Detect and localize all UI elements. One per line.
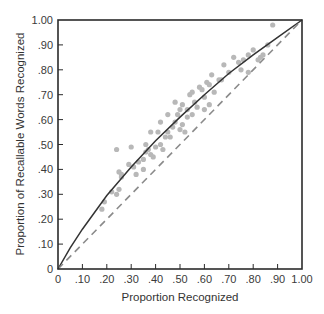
data-point bbox=[207, 82, 212, 87]
y-tick-label: .40 bbox=[38, 163, 53, 175]
data-point bbox=[182, 129, 187, 134]
y-tick-label: .30 bbox=[38, 188, 53, 200]
identity-line bbox=[58, 20, 302, 269]
data-point bbox=[158, 142, 163, 147]
scatter-chart: 0.10.20.30.40.50.60.70.80.901.00 0.10.20… bbox=[0, 0, 324, 314]
data-point bbox=[260, 52, 265, 57]
data-point bbox=[190, 112, 195, 117]
x-tick-label: 0 bbox=[55, 273, 61, 285]
x-tick-label: .90 bbox=[270, 273, 285, 285]
data-point bbox=[177, 127, 182, 132]
data-point bbox=[134, 172, 139, 177]
data-points bbox=[99, 22, 275, 211]
data-point bbox=[173, 100, 178, 105]
x-tick-label: .10 bbox=[75, 273, 90, 285]
data-point bbox=[199, 87, 204, 92]
data-point bbox=[160, 147, 165, 152]
data-point bbox=[270, 22, 275, 27]
x-tick-label: .40 bbox=[148, 273, 163, 285]
data-point bbox=[190, 90, 195, 95]
x-tick-label: .20 bbox=[99, 273, 114, 285]
y-tick-label: 1.00 bbox=[32, 14, 53, 26]
data-point bbox=[141, 167, 146, 172]
data-point bbox=[231, 55, 236, 60]
x-tick-label: 1.00 bbox=[291, 273, 312, 285]
data-point bbox=[238, 67, 243, 72]
data-point bbox=[212, 90, 217, 95]
data-point bbox=[165, 112, 170, 117]
y-tick-label: 0 bbox=[47, 263, 53, 275]
y-tick-label: .70 bbox=[38, 89, 53, 101]
data-point bbox=[195, 105, 200, 110]
data-point bbox=[180, 102, 185, 107]
data-point bbox=[141, 157, 146, 162]
data-point bbox=[148, 129, 153, 134]
y-tick-label: .80 bbox=[38, 64, 53, 76]
data-point bbox=[153, 144, 158, 149]
data-point bbox=[251, 47, 256, 52]
y-tick-label: .10 bbox=[38, 238, 53, 250]
data-point bbox=[126, 162, 131, 167]
data-point bbox=[177, 107, 182, 112]
data-point bbox=[168, 134, 173, 139]
y-tick-label: .20 bbox=[38, 213, 53, 225]
data-point bbox=[143, 142, 148, 147]
x-tick-label: .60 bbox=[197, 273, 212, 285]
data-point bbox=[155, 129, 160, 134]
data-point bbox=[114, 147, 119, 152]
x-tick-label: .70 bbox=[221, 273, 236, 285]
data-point bbox=[207, 102, 212, 107]
y-tick-label: .60 bbox=[38, 114, 53, 126]
y-tick-label: .90 bbox=[38, 39, 53, 51]
x-tick-label: .80 bbox=[246, 273, 261, 285]
data-point bbox=[202, 107, 207, 112]
data-point bbox=[246, 70, 251, 75]
data-point bbox=[209, 72, 214, 77]
data-point bbox=[151, 154, 156, 159]
data-point bbox=[158, 120, 163, 125]
reference-lines bbox=[58, 20, 302, 269]
y-axis-label: Proportion of Recallable Words Recognize… bbox=[14, 33, 26, 256]
x-tick-label: .30 bbox=[124, 273, 139, 285]
x-tick-label: .50 bbox=[172, 273, 187, 285]
data-point bbox=[114, 192, 119, 197]
data-point bbox=[163, 134, 168, 139]
x-axis-ticks: 0.10.20.30.40.50.60.70.80.901.00 bbox=[55, 264, 313, 285]
y-tick-label: .50 bbox=[38, 139, 53, 151]
data-point bbox=[116, 187, 121, 192]
data-point bbox=[175, 112, 180, 117]
data-point bbox=[185, 115, 190, 120]
data-point bbox=[99, 207, 104, 212]
data-point bbox=[221, 62, 226, 67]
x-axis-label: Proportion Recognized bbox=[122, 291, 239, 303]
data-point bbox=[129, 144, 134, 149]
data-point bbox=[180, 122, 185, 127]
